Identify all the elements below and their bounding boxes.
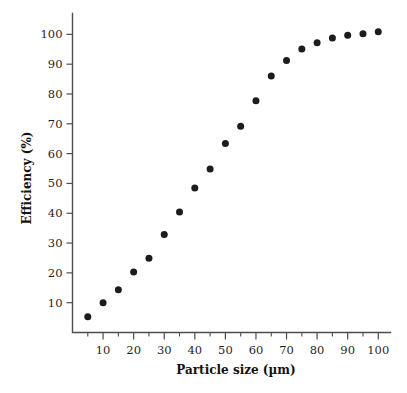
y-tick-label: 70: [48, 117, 63, 131]
data-point: [130, 268, 137, 275]
x-tick-label: 50: [218, 343, 233, 357]
scatter-plot: 102030405060708090100 102030405060708090…: [0, 0, 407, 393]
y-tick-label: 80: [48, 87, 63, 101]
y-tick-label: 50: [48, 176, 63, 190]
x-tick-label: 80: [310, 343, 325, 357]
chart-figure: 102030405060708090100 102030405060708090…: [0, 0, 407, 393]
y-axis-title: Efficiency (%): [20, 132, 34, 225]
data-point: [314, 39, 321, 46]
x-tick-label: 10: [96, 343, 111, 357]
x-tick-label: 90: [340, 343, 355, 357]
data-point: [268, 73, 275, 80]
y-tick-label: 100: [41, 27, 63, 41]
data-point: [298, 45, 305, 52]
data-point: [359, 30, 366, 37]
data-point: [145, 255, 152, 262]
data-point: [100, 299, 107, 306]
x-tick-label: 100: [367, 343, 389, 357]
data-point: [161, 231, 168, 238]
x-tick-label: 20: [126, 343, 141, 357]
data-point: [222, 140, 229, 147]
data-point: [375, 28, 382, 35]
data-point: [237, 123, 244, 130]
data-point: [329, 34, 336, 41]
y-tick-label: 60: [48, 147, 63, 161]
y-tick-label: 90: [48, 57, 63, 71]
x-tick-label: 30: [157, 343, 172, 357]
y-tick-label: 30: [48, 236, 63, 250]
data-point: [84, 313, 91, 320]
data-point: [176, 209, 183, 216]
y-tick-label: 20: [48, 266, 63, 280]
data-point: [115, 286, 122, 293]
x-tick-label: 60: [249, 343, 264, 357]
data-point: [191, 184, 198, 191]
data-point: [344, 32, 351, 39]
y-tick-label: 40: [48, 206, 63, 220]
x-tick-label: 70: [279, 343, 294, 357]
y-tick-label: 10: [48, 296, 63, 310]
data-point: [252, 97, 259, 104]
data-point: [283, 57, 290, 64]
data-point: [207, 166, 214, 173]
x-axis-title: Particle size (µm): [176, 363, 295, 377]
x-tick-label: 40: [187, 343, 202, 357]
